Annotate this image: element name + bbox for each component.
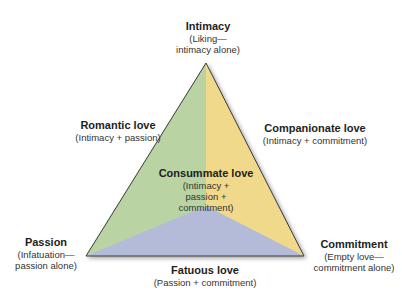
vertex-subtitle: (Infatuation— xyxy=(4,249,88,260)
vertex-subtitle: commitment alone) xyxy=(306,262,402,273)
vertex-subtitle: intimacy alone) xyxy=(158,44,258,55)
center-subtitle: passion + xyxy=(148,191,264,202)
side-subtitle: (Intimacy + commitment) xyxy=(250,135,380,146)
vertex-title: Passion xyxy=(4,236,88,249)
vertex-subtitle: passion alone) xyxy=(4,260,88,271)
side-title: Fatuous love xyxy=(140,264,270,277)
side-subtitle: (Passion + commitment) xyxy=(140,277,270,288)
side-title: Companionate love xyxy=(250,122,380,135)
vertex-subtitle: (Liking— xyxy=(158,33,258,44)
vertex-intimacy-label: Intimacy (Liking— intimacy alone) xyxy=(158,20,258,55)
love-triangle-diagram: Intimacy (Liking— intimacy alone) Romant… xyxy=(0,0,402,301)
center-subtitle: commitment) xyxy=(148,202,264,213)
vertex-title: Commitment xyxy=(306,238,402,251)
vertex-passion-label: Passion (Infatuation— passion alone) xyxy=(4,236,88,271)
vertex-subtitle: (Empty love— xyxy=(306,251,402,262)
center-subtitle: (Intimacy + xyxy=(148,180,264,191)
side-romantic-label: Romantic love (Intimacy + passion) xyxy=(58,119,178,143)
vertex-title: Intimacy xyxy=(158,20,258,33)
side-subtitle: (Intimacy + passion) xyxy=(58,132,178,143)
side-fatuous-label: Fatuous love (Passion + commitment) xyxy=(140,264,270,288)
center-title: Consummate love xyxy=(148,167,264,180)
side-title: Romantic love xyxy=(58,119,178,132)
center-consummate-label: Consummate love (Intimacy + passion + co… xyxy=(148,167,264,213)
vertex-commitment-label: Commitment (Empty love— commitment alone… xyxy=(306,238,402,273)
side-companionate-label: Companionate love (Intimacy + commitment… xyxy=(250,122,380,146)
